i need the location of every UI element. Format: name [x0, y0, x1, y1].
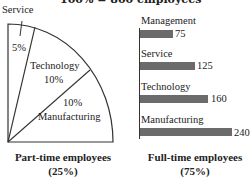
pie-value-service: 5%	[12, 42, 26, 53]
pie-label-technology: Technology	[30, 60, 79, 71]
bar-technology	[140, 95, 208, 103]
bar-management	[140, 30, 173, 38]
bar-label-service: Service	[141, 48, 173, 59]
part-time-quarter-pie	[0, 0, 130, 150]
bar-value-management: 75	[175, 28, 186, 39]
full-time-caption-line2: (75%)	[140, 164, 250, 178]
bar-service	[140, 62, 195, 70]
bar-manufacturing	[140, 128, 232, 136]
part-time-caption-line2: (25%)	[8, 164, 118, 178]
pie-label-manufacturing: Manufacturing	[38, 111, 100, 122]
part-time-caption: Part-time employees (25%)	[8, 150, 118, 178]
full-time-caption: Full-time employees (75%)	[140, 150, 250, 178]
pie-label-service: Service	[2, 4, 34, 15]
bar-axis	[139, 28, 140, 139]
pie-value-manufacturing: 10%	[63, 97, 82, 108]
bar-value-service: 125	[197, 60, 213, 71]
full-time-caption-line1: Full-time employees	[140, 150, 250, 164]
bar-value-manufacturing: 240	[234, 127, 250, 138]
part-time-caption-line1: Part-time employees	[8, 150, 118, 164]
bar-label-management: Management	[141, 15, 196, 26]
pie-value-technology: 10%	[44, 74, 63, 85]
bar-label-technology: Technology	[141, 81, 190, 92]
bar-label-manufacturing: Manufacturing	[141, 114, 203, 125]
bar-value-technology: 160	[211, 93, 227, 104]
